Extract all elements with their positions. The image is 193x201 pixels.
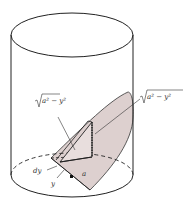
svg-text:a² − y²: a² − y² <box>42 97 66 105</box>
cross-section-triangle <box>60 122 92 162</box>
cylinder-top-ellipse <box>11 13 133 57</box>
point-marker <box>70 175 73 178</box>
label-a: a <box>82 170 86 178</box>
leader-dy <box>47 166 57 170</box>
svg-text:a² − y²: a² − y² <box>147 93 171 101</box>
label-y: y <box>50 180 56 188</box>
leader-y <box>57 170 64 178</box>
cylinder-bottom-front <box>11 175 133 197</box>
label-dy: dy <box>33 167 42 175</box>
label-sqrt-left: a² − y² <box>35 94 66 107</box>
cylinder-wedge-diagram: a² − y² a² − y² dy y a <box>0 0 193 201</box>
label-sqrt-right: a² − y² <box>140 90 183 103</box>
